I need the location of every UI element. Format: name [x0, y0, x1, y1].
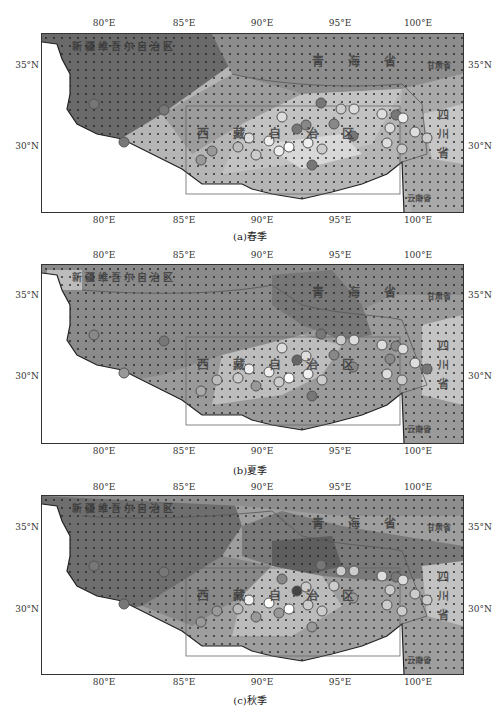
lon-tick-100: 100°E [404, 18, 432, 28]
lon-tick-90: 90°E [251, 482, 274, 492]
map-autumn: 新疆维吾尔自治区 青 海 省 甘肃省 西 藏 自 治 区 四川省 云南省 [41, 495, 464, 675]
lat-tick-35: 35°N [15, 522, 39, 532]
lat-tick-30-right: 30°N [468, 371, 492, 381]
lon-tick-80: 80°E [93, 18, 116, 28]
map-summer: 新疆维吾尔自治区 青 海 省 甘肃省 西 藏 自 治 区 四川省 云南省 [41, 264, 464, 444]
lon-tick-100-bottom: 100°E [404, 677, 432, 687]
lat-tick-35-right: 35°N [468, 290, 492, 300]
lon-tick-80-bottom: 80°E [93, 215, 116, 225]
lon-tick-85-bottom: 85°E [173, 677, 196, 687]
lon-tick-80: 80°E [93, 250, 116, 260]
lon-tick-85: 85°E [173, 250, 196, 260]
label-xinjiang: 新疆维吾尔自治区 [72, 269, 176, 284]
lon-tick-85: 85°E [173, 482, 196, 492]
lat-tick-30-right: 30°N [468, 141, 492, 151]
label-yunnan: 云南省 [407, 192, 431, 203]
lon-tick-90: 90°E [251, 18, 274, 28]
lon-tick-80: 80°E [93, 482, 116, 492]
lon-tick-95: 95°E [329, 18, 352, 28]
lat-tick-30: 30°N [15, 371, 39, 381]
lon-tick-80-bottom: 80°E [93, 446, 116, 456]
caption-summer: (b)夏季 [233, 462, 267, 477]
panel-spring: 80°E 85°E 90°E 95°E 100°E 35°N 30°N 35°N… [0, 0, 495, 240]
label-qinghai: 青 海 省 [312, 283, 406, 300]
lon-tick-85: 85°E [173, 18, 196, 28]
lon-tick-95-bottom: 95°E [329, 215, 352, 225]
label-gansu: 甘肃省 [427, 521, 451, 532]
lon-tick-85-bottom: 85°E [173, 446, 196, 456]
lon-tick-100-bottom: 100°E [404, 215, 432, 225]
lon-tick-100: 100°E [404, 482, 432, 492]
lon-tick-100-bottom: 100°E [404, 446, 432, 456]
label-gansu: 甘肃省 [427, 59, 451, 70]
map-spring: 新疆维吾尔自治区 青 海 省 甘肃省 西 藏 自 治 区 四川省 云南省 [41, 33, 464, 213]
lat-tick-30-right: 30°N [468, 604, 492, 614]
lon-tick-90-bottom: 90°E [251, 677, 274, 687]
label-qinghai: 青 海 省 [312, 514, 406, 531]
label-xinjiang: 新疆维吾尔自治区 [72, 38, 176, 53]
panel-autumn: 80°E 85°E 90°E 95°E 100°E 35°N 30°N 35°N… [0, 480, 495, 718]
label-sichuan: 四川省 [434, 340, 450, 397]
label-xizang: 西 藏 自 治 区 [197, 124, 364, 141]
lon-tick-80-bottom: 80°E [93, 677, 116, 687]
lon-tick-90-bottom: 90°E [251, 446, 274, 456]
label-yunnan: 云南省 [407, 423, 431, 434]
lat-tick-35-right: 35°N [468, 60, 492, 70]
lon-tick-95: 95°E [329, 482, 352, 492]
label-xizang: 西 藏 自 治 区 [197, 586, 364, 603]
lon-tick-100: 100°E [404, 250, 432, 260]
lat-tick-30: 30°N [15, 604, 39, 614]
lon-tick-90-bottom: 90°E [251, 215, 274, 225]
panel-summer: 80°E 85°E 90°E 95°E 100°E 35°N 30°N 35°N… [0, 240, 495, 480]
lon-tick-95: 95°E [329, 250, 352, 260]
label-yunnan: 云南省 [407, 654, 431, 665]
lon-tick-85-bottom: 85°E [173, 215, 196, 225]
label-sichuan: 四川省 [434, 571, 450, 628]
label-gansu: 甘肃省 [427, 290, 451, 301]
lat-tick-35-right: 35°N [468, 522, 492, 532]
label-qinghai: 青 海 省 [312, 52, 406, 69]
label-xizang: 西 藏 自 治 区 [197, 355, 364, 372]
lon-tick-90: 90°E [251, 250, 274, 260]
lat-tick-30: 30°N [15, 141, 39, 151]
lat-tick-35: 35°N [15, 290, 39, 300]
label-sichuan: 四川省 [434, 109, 450, 166]
label-xinjiang: 新疆维吾尔自治区 [72, 500, 176, 515]
lon-tick-95-bottom: 95°E [329, 446, 352, 456]
lat-tick-35: 35°N [15, 60, 39, 70]
caption-autumn: (c)秋季 [233, 692, 266, 707]
lon-tick-95-bottom: 95°E [329, 677, 352, 687]
